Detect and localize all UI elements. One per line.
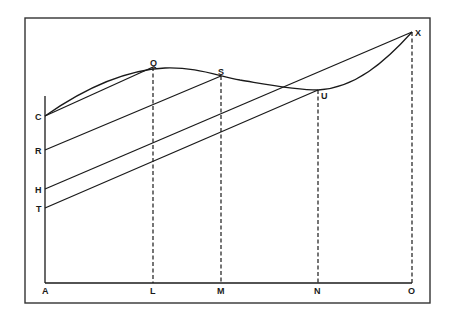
label-u: U: [321, 91, 328, 101]
line-h-x: [45, 32, 412, 189]
label-n: N: [314, 286, 321, 296]
line-r-s: [45, 76, 221, 150]
outer-frame: [25, 18, 430, 303]
label-o: O: [408, 286, 415, 296]
diagram-canvas: A L M N O C R H T Q S U X: [0, 0, 450, 319]
label-m: M: [217, 286, 225, 296]
line-c-q: [45, 67, 153, 116]
label-t: T: [36, 204, 42, 214]
label-h: H: [35, 185, 42, 195]
curve-path: [45, 32, 412, 116]
label-q: Q: [150, 58, 157, 68]
line-t-u: [45, 90, 318, 208]
label-a: A: [42, 286, 49, 296]
label-c: C: [35, 112, 42, 122]
label-l: L: [150, 286, 156, 296]
label-r: R: [35, 146, 42, 156]
label-x: X: [415, 28, 421, 38]
label-s: S: [218, 67, 224, 77]
